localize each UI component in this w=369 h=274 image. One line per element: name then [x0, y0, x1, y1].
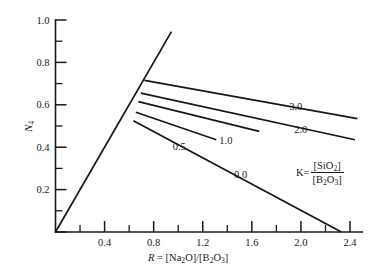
x-axis-title-s2: 2	[210, 256, 214, 265]
x-tick-label: 0.4	[98, 237, 112, 248]
chart-plot-area: 0.20.40.60.81.00.40.81.21.62.02.4	[0, 0, 369, 274]
k-definition-annotation: K= [SiO2] [B2O3]	[296, 160, 344, 186]
x-axis-title-p3: O	[213, 252, 221, 263]
x-tick-label: 2.0	[294, 237, 307, 248]
k-den-sub1: 2	[323, 178, 327, 187]
x-tick-label: 1.2	[196, 237, 209, 248]
y-tick-label: 0.4	[36, 142, 50, 153]
x-tick-label: 1.6	[245, 237, 258, 248]
x-axis-title-p2: O]/[B	[185, 252, 210, 263]
y-tick-label: 0.6	[36, 99, 49, 110]
y-tick-label: 0.2	[36, 184, 49, 195]
y-tick-label: 0.8	[36, 57, 49, 68]
y-tick-label: 1.0	[36, 15, 49, 26]
k-num-main: [SiO	[314, 160, 334, 171]
data-curve	[141, 93, 355, 140]
x-axis-title-p1: Na	[169, 252, 181, 263]
tick-labels-group: 0.20.40.60.81.00.40.81.21.62.02.4	[36, 15, 357, 248]
x-axis-title-s3: 3	[221, 256, 225, 265]
k-numerator: [SiO2]	[312, 160, 343, 172]
k-num-tail: ]	[337, 160, 341, 171]
k-denominator: [B2O3]	[311, 174, 344, 186]
curve-label: 0.0	[234, 169, 247, 180]
k-fraction: [SiO2] [B2O3]	[311, 160, 344, 186]
k-den-sub2: 3	[334, 178, 338, 187]
k-symbol: K=	[296, 167, 310, 178]
x-axis-title-eq: = [	[154, 252, 169, 263]
curve-label: 1.0	[219, 135, 232, 146]
x-tick-label: 2.4	[343, 237, 357, 248]
chart-figure: 0.20.40.60.81.00.40.81.21.62.02.4 0.00.5…	[0, 0, 369, 274]
y-axis-title-sub: 4	[27, 121, 36, 125]
k-den-tail: ]	[338, 174, 342, 185]
x-axis-title-p4: ]	[225, 252, 229, 263]
curve-label: 0.5	[173, 141, 186, 152]
data-curves-group	[56, 32, 358, 232]
y-axis-title-main: N	[22, 125, 34, 132]
x-axis-title-s1: 2	[181, 256, 185, 265]
k-num-sub: 2	[333, 164, 337, 173]
data-curve	[136, 112, 216, 140]
axes-group	[56, 20, 363, 232]
curve-label: 3.0	[289, 101, 302, 112]
curve-label: 2.0	[294, 124, 307, 135]
x-tick-label: 0.8	[147, 237, 160, 248]
k-den-main: [B	[313, 174, 324, 185]
y-axis-title: N4	[22, 121, 34, 132]
data-curve	[144, 80, 357, 118]
x-axis-title: R = [Na2O]/[B2O3]	[148, 252, 228, 263]
